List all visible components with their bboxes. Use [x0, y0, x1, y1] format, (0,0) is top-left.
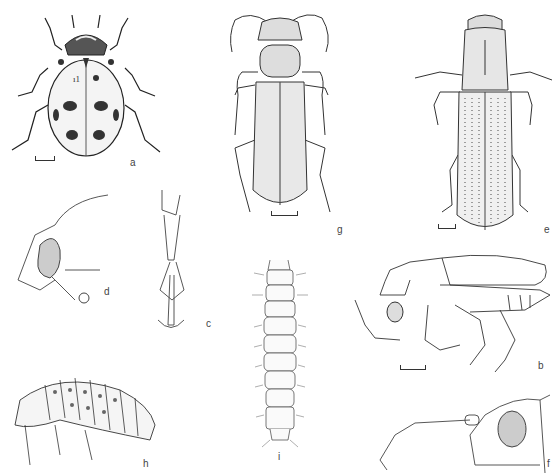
scale-bar-a: [35, 156, 55, 161]
head-antenna-illustration: [375, 395, 557, 473]
panel-label-e: e: [544, 224, 550, 235]
panel-b-beetle: b: [350, 250, 557, 380]
panel-label-g: g: [337, 224, 343, 235]
panel-label-h: h: [143, 458, 149, 469]
head-lateral-illustration: [0, 190, 110, 300]
panel-label-f: f: [547, 458, 550, 469]
panel-label-d: d: [104, 286, 110, 297]
panel-i-larva: i: [240, 255, 320, 470]
punctate-beetle-illustration: [380, 0, 557, 240]
svg-text:ı1: ı1: [73, 74, 80, 84]
panel-h-larva: h: [0, 370, 170, 473]
panel-f-head: f: [375, 395, 557, 473]
larva-dorsal-illustration: [240, 255, 320, 470]
panel-label-b: b: [538, 360, 544, 371]
beetle-lateral-illustration: [350, 250, 557, 380]
panel-a-ladybird: ı1 a: [0, 0, 200, 180]
scale-bar-b: [400, 365, 426, 370]
panel-e-beetle: e: [380, 0, 557, 240]
panel-d-head: d: [0, 190, 110, 300]
ladybird-illustration: ı1: [0, 0, 200, 180]
scale-bar-g: [271, 211, 298, 216]
panel-c-tarsus: c: [150, 190, 220, 340]
panel-label-a: a: [130, 157, 136, 168]
panel-label-i: i: [278, 451, 280, 462]
scale-bar-e: [438, 224, 456, 229]
panel-label-c: c: [206, 318, 211, 329]
